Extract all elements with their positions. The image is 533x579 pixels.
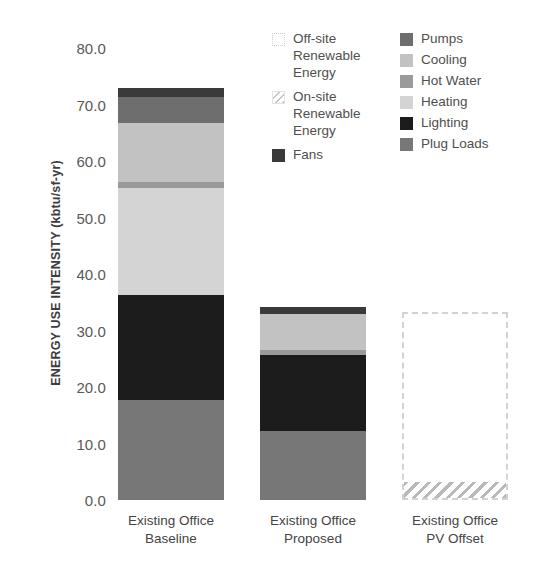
legend-label: Off-site Renewable Energy [293,30,361,81]
hot-water-swatch-icon [400,75,413,88]
plug-loads-segment[interactable] [118,400,224,500]
plug-loads-segment[interactable] [260,431,366,500]
fans-segment[interactable] [118,88,224,97]
bar-stack-1 [118,88,224,500]
lighting-segment[interactable] [118,295,224,400]
x-axis-tick-labels: Existing OfficeBaselineExisting OfficePr… [118,512,533,572]
heating-swatch-icon [400,96,413,109]
cooling-swatch-icon [400,54,413,67]
y-axis-tick-60: 60.0 [44,153,106,170]
legend-item-on-site-renewable-energy[interactable]: On-site Renewable Energy [272,88,400,139]
plug-loads-swatch-icon [400,138,413,151]
legend-item-lighting[interactable]: Lighting [400,114,533,131]
chart-legend: Off-site Renewable EnergyOn-site Renewab… [272,30,533,230]
y-axis-tick-labels: 80.070.060.050.040.030.020.010.00.0 [44,0,106,579]
hatched-swatch-icon [272,91,285,104]
legend-item-fans[interactable]: Fans [272,146,400,163]
x-axis-label-line: Existing Office [390,512,520,530]
legend-item-hot-water[interactable]: Hot Water [400,72,533,89]
y-axis-tick-20: 20.0 [44,379,106,396]
legend-label: Plug Loads [421,135,489,152]
offsite-renewable-energy-segment[interactable] [402,312,508,500]
dotted-outline-swatch-icon [272,33,285,46]
y-axis-tick-10: 10.0 [44,435,106,452]
legend-column-right: PumpsCoolingHot WaterHeatingLightingPlug… [400,30,533,156]
y-axis-tick-40: 40.0 [44,266,106,283]
x-axis-label-line: PV Offset [390,530,520,548]
legend-label: Lighting [421,114,468,131]
y-axis-tick-30: 30.0 [44,322,106,339]
lighting-segment[interactable] [260,355,366,431]
legend-item-pumps[interactable]: Pumps [400,30,533,47]
legend-item-plug-loads[interactable]: Plug Loads [400,135,533,152]
y-axis-tick-50: 50.0 [44,209,106,226]
heating-segment[interactable] [118,188,224,295]
legend-item-heating[interactable]: Heating [400,93,533,110]
lighting-swatch-icon [400,117,413,130]
pumps-segment[interactable] [118,97,224,123]
y-axis-tick-70: 70.0 [44,96,106,113]
legend-label: Hot Water [421,72,481,89]
x-axis-label-2: Existing OfficeProposed [248,512,378,548]
cooling-segment[interactable] [260,314,366,350]
legend-column-left: Off-site Renewable EnergyOn-site Renewab… [272,30,400,167]
x-axis-label-line: Proposed [248,530,378,548]
fans-segment[interactable] [260,307,366,314]
energy-use-intensity-chart: ENERGY USE INTENSITY (kbtu/sf-yr) 80.070… [0,0,533,579]
legend-label: Fans [293,146,323,163]
onsite-renewable-energy-segment[interactable] [404,482,506,498]
bar-stack-2 [260,307,366,500]
legend-item-off-site-renewable-energy[interactable]: Off-site Renewable Energy [272,30,400,81]
pumps-swatch-icon [400,33,413,46]
x-axis-label-line: Existing Office [106,512,236,530]
y-axis-tick-80: 80.0 [44,40,106,57]
legend-label: Heating [421,93,468,110]
legend-label: Cooling [421,51,467,68]
legend-label: Pumps [421,30,463,47]
cooling-segment[interactable] [118,123,224,182]
x-axis-label-1: Existing OfficeBaseline [106,512,236,548]
legend-item-cooling[interactable]: Cooling [400,51,533,68]
y-axis-tick-0: 0.0 [44,492,106,509]
legend-label: On-site Renewable Energy [293,88,361,139]
fans-swatch-icon [272,149,285,162]
x-axis-label-3: Existing OfficePV Offset [390,512,520,548]
x-axis-label-line: Existing Office [248,512,378,530]
x-axis-label-line: Baseline [106,530,236,548]
